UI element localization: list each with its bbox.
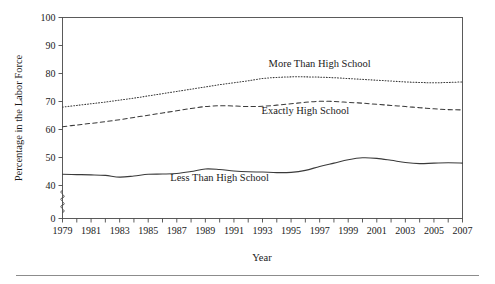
x-tick-label-1981: 1981 [81,225,101,236]
y-tick-label-50: 50 [46,152,56,163]
y-axis-title: Percentage in the Labor Force [13,54,24,181]
x-axis-ticks: 1979198119831985198719891991199319951997… [53,219,473,236]
y-tick-label-100: 100 [41,12,56,23]
series-line-more-than-high-school [63,77,463,107]
x-tick-label-1997: 1997 [310,225,330,236]
x-tick-label-1989: 1989 [195,225,215,236]
x-tick-label-1999: 1999 [338,225,358,236]
series-label-exactly-high-school: Exactly High School [262,105,350,116]
line-chart: 0405060708090100 19791981198319851987198… [0,0,495,284]
plot-frame [63,18,463,219]
x-tick-label-2003: 2003 [395,225,415,236]
x-tick-label-2007: 2007 [453,225,473,236]
y-tick-label-90: 90 [46,40,56,51]
y-tick-label-80: 80 [46,68,56,79]
series-label-more-than-high-school: More Than High School [269,58,371,69]
x-tick-label-1979: 1979 [53,225,73,236]
figure-container: 0405060708090100 19791981198319851987198… [0,0,495,284]
y-tick-label-70: 70 [46,96,56,107]
x-tick-label-1987: 1987 [167,225,187,236]
y-axis-ticks: 0405060708090100 [41,12,63,224]
x-tick-label-1983: 1983 [110,225,130,236]
x-tick-label-1993: 1993 [253,225,273,236]
x-axis-title: Year [252,252,272,263]
x-tick-label-1995: 1995 [281,225,301,236]
y-tick-label-40: 40 [46,180,56,191]
y-tick-label-0: 0 [51,213,56,224]
axis-break-zigzag [61,191,64,213]
x-tick-label-2005: 2005 [424,225,444,236]
y-tick-label-60: 60 [46,124,56,135]
x-tick-label-1991: 1991 [224,225,244,236]
series-annotations: More Than High SchoolExactly High School… [170,58,371,184]
x-tick-label-2001: 2001 [367,225,387,236]
series-label-less-than-high-school: Less Than High School [170,172,269,183]
x-tick-label-1985: 1985 [138,225,158,236]
series-lines [63,77,463,177]
y-axis-break-symbol [61,191,64,213]
